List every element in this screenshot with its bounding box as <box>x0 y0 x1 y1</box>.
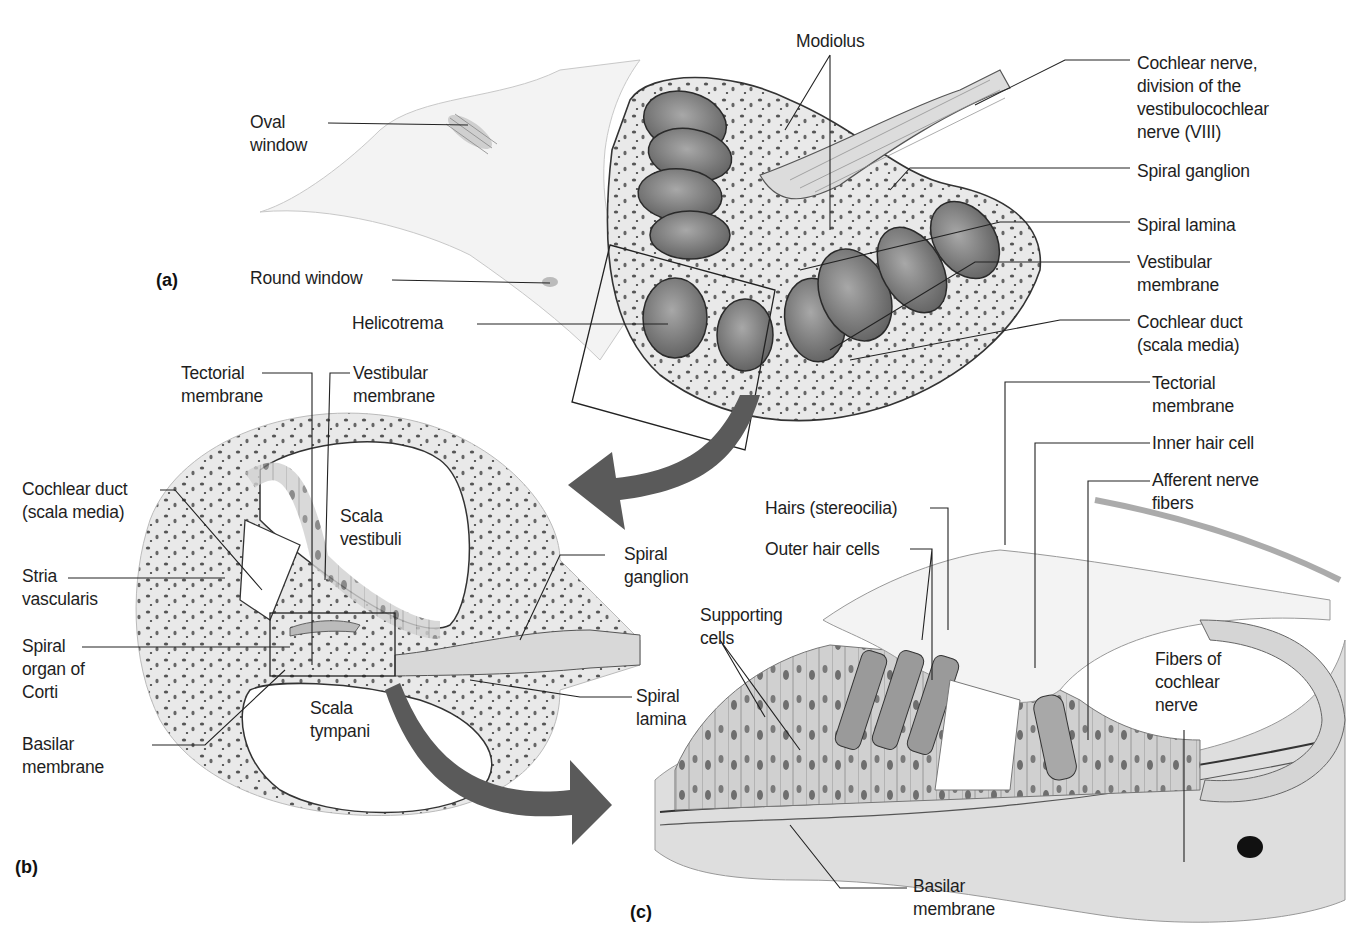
label-vestibular-membrane-b: Vestibular membrane <box>353 362 435 408</box>
label-inner-hair-cell: Inner hair cell <box>1152 432 1254 455</box>
label-helicotrema: Helicotrema <box>352 312 443 335</box>
label-spiral-organ-of-corti: Spiral organ of Corti <box>22 635 85 704</box>
label-cochlear-nerve: Cochlear nerve, division of the vestibul… <box>1137 52 1269 144</box>
label-stria-vascularis: Stria vascularis <box>22 565 98 611</box>
panel-tag-a: (a) <box>156 270 178 291</box>
label-supporting-cells: Supporting cells <box>700 604 783 650</box>
panel-tag-b: (b) <box>15 857 38 878</box>
label-vestibular-membrane-a: Vestibular membrane <box>1137 251 1219 297</box>
label-spiral-ganglion-a: Spiral ganglion <box>1137 160 1250 183</box>
label-outer-hair-cells: Outer hair cells <box>765 538 879 561</box>
label-cochlear-duct-a: Cochlear duct (scala media) <box>1137 311 1242 357</box>
label-spiral-lamina-a: Spiral lamina <box>1137 214 1236 237</box>
label-tectorial-membrane-b: Tectorial membrane <box>181 362 263 408</box>
label-fibers-of-cochlear-nerve: Fibers of cochlear nerve <box>1155 648 1221 717</box>
label-spiral-ganglion-b: Spiral ganglion <box>624 543 689 589</box>
label-tectorial-membrane-c: Tectorial membrane <box>1152 372 1234 418</box>
label-oval-window: Oval window <box>250 111 307 157</box>
label-basilar-membrane-b: Basilar membrane <box>22 733 104 779</box>
label-basilar-membrane-c: Basilar membrane <box>913 875 995 921</box>
cochlea-anatomy-figure: (a) (b) (c) Oval window Round window Hel… <box>0 0 1358 944</box>
arrow-to-panel-b <box>568 395 760 530</box>
label-hairs-stereocilia: Hairs (stereocilia) <box>765 497 897 520</box>
panel-c-organ-of-corti <box>655 382 1345 922</box>
label-scala-vestibuli: Scala vestibuli <box>340 505 401 551</box>
label-scala-tympani: Scala tympani <box>310 697 370 743</box>
panel-tag-c: (c) <box>630 902 652 923</box>
label-modiolus: Modiolus <box>796 30 864 53</box>
blood-vessel-shape <box>1237 836 1263 858</box>
label-round-window: Round window <box>250 267 362 290</box>
round-window-shape <box>542 277 558 287</box>
panel-b-cross-section <box>68 373 640 845</box>
label-cochlear-duct-b: Cochlear duct (scala media) <box>22 478 127 524</box>
label-spiral-lamina-b: Spiral lamina <box>636 685 686 731</box>
label-afferent-nerve-fibers: Afferent nerve fibers <box>1152 469 1259 515</box>
